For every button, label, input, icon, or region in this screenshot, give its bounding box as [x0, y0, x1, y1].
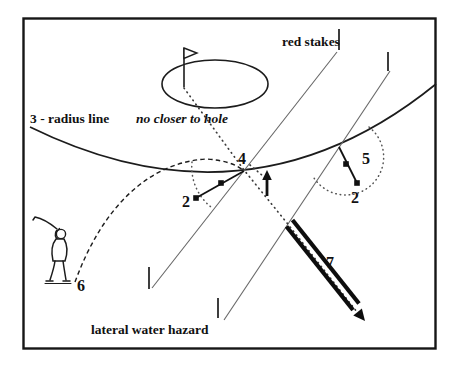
marker-5-label: 5 — [362, 150, 370, 167]
ball-square-right-2 — [354, 180, 360, 186]
red-stakes-label: red stakes — [282, 34, 340, 49]
marker-7-label: 7 — [326, 254, 334, 271]
diagram-canvas: 3 - radius line no closer to hole red st… — [0, 0, 456, 372]
ball-square-right-1 — [343, 161, 349, 167]
marker-2-left-label: 2 — [182, 193, 190, 210]
marker-6-label: 6 — [77, 277, 85, 294]
ball-square-left-2 — [193, 195, 199, 201]
radius-line-label: 3 - radius line — [30, 111, 109, 126]
golfer-torso — [52, 239, 67, 261]
radius-line-label-italic: no closer to hole — [136, 111, 228, 126]
lateral-water-hazard-label: lateral water hazard — [91, 322, 209, 337]
marker-4-label: 4 — [238, 150, 246, 167]
ball-square-left-1 — [218, 180, 224, 186]
green-ellipse — [162, 60, 268, 108]
marker-2-right-label: 2 — [351, 189, 359, 206]
golf-lateral-water-hazard-diagram: 3 - radius line no closer to hole red st… — [0, 0, 456, 372]
